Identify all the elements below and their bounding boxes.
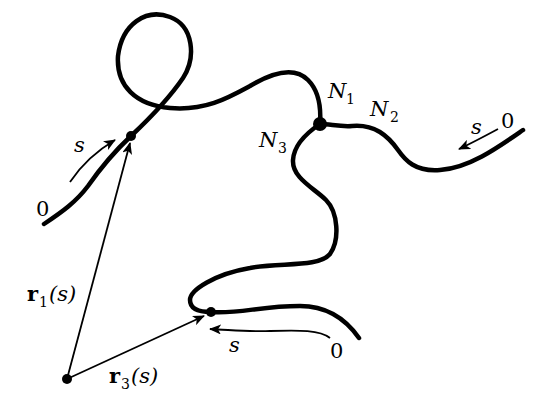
vector-r1-label: r 1 (s) <box>27 281 76 310</box>
polymer-network-diagram: 0 s 0 s 0 s N 1 N 2 N 3 r 1 (s) r 3 (s) <box>0 0 551 405</box>
svg-text:3: 3 <box>278 140 287 156</box>
chain-1-point <box>126 131 136 141</box>
vector-r3-label: r 3 (s) <box>109 363 158 392</box>
chain-3-arc-label: s <box>229 333 240 357</box>
chain-2-start-label: 0 <box>501 109 514 133</box>
chain-3 <box>190 124 359 338</box>
svg-text:r: r <box>109 363 121 388</box>
junction-label-n2: N 2 <box>369 97 399 125</box>
svg-text:1: 1 <box>39 294 48 310</box>
svg-text:3: 3 <box>121 376 130 392</box>
junction-label-n3: N 3 <box>258 128 287 156</box>
chain-3-direction-arrow <box>210 329 330 338</box>
chain-1-start-label: 0 <box>36 197 49 221</box>
svg-text:1: 1 <box>346 91 355 107</box>
svg-text:N: N <box>369 97 389 121</box>
chain-1 <box>44 15 320 224</box>
svg-text:N: N <box>327 79 347 103</box>
svg-text:r: r <box>27 281 39 306</box>
chain-3-start-label: 0 <box>330 339 343 363</box>
svg-text:(s): (s) <box>49 282 76 306</box>
svg-text:N: N <box>258 128 278 152</box>
junction-label-n1: N 1 <box>327 79 355 107</box>
svg-text:(s): (s) <box>131 364 158 388</box>
vector-r1 <box>67 143 130 379</box>
junction-node <box>313 117 327 131</box>
chain-2-arc-label: s <box>471 115 482 139</box>
chain-3-point <box>206 307 216 317</box>
chain-1-arc-label: s <box>74 133 85 157</box>
svg-text:2: 2 <box>390 109 399 125</box>
